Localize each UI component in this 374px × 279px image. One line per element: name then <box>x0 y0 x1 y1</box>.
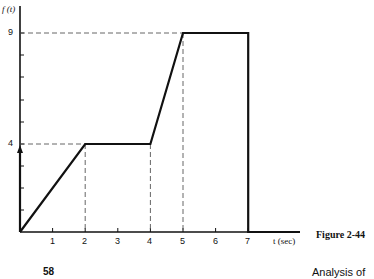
x-tick-label-3: 3 <box>115 237 120 246</box>
running-head: Analysis of <box>312 266 365 278</box>
x-tick-label-2: 2 <box>82 237 87 246</box>
x-tick-label-5: 5 <box>180 237 185 246</box>
y-tick-label-9: 9 <box>8 28 13 37</box>
guide-lines <box>20 33 183 232</box>
figure-caption: Figure 2-44 <box>316 229 365 240</box>
y-tick-label-4: 4 <box>8 139 13 148</box>
x-tick-label-6: 6 <box>213 237 218 246</box>
impulse-arrowhead-icon <box>17 145 23 153</box>
x-tick-label-4: 4 <box>147 237 152 246</box>
y-axis-label: f (t) <box>2 5 15 14</box>
x-tick-label-7: 7 <box>245 237 250 246</box>
page-number: 58 <box>43 266 54 277</box>
x-axis-label: t (sec) <box>273 237 295 246</box>
x-tick-label-1: 1 <box>50 237 55 246</box>
function-curve <box>20 33 300 232</box>
